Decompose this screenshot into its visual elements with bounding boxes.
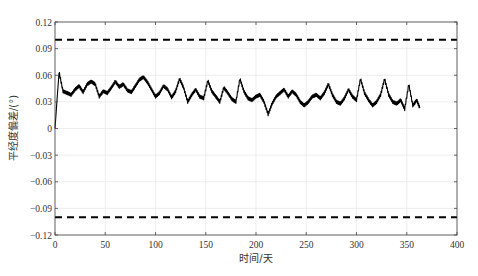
x-tick-label: 250 (299, 240, 314, 250)
y-tick-label: 0 (47, 124, 52, 134)
y-axis-ticks: −0.12−0.09−0.06−0.0300.030.060.090.12 (30, 18, 457, 241)
x-axis-label: 时间/天 (239, 252, 272, 264)
y-tick-label: 0.12 (35, 18, 52, 28)
y-tick-label: −0.09 (30, 204, 52, 214)
y-tick-label: 0.06 (35, 71, 52, 81)
y-tick-label: −0.12 (30, 231, 52, 241)
y-tick-label: 0.03 (35, 97, 52, 107)
x-tick-label: 0 (53, 240, 58, 250)
x-tick-label: 100 (148, 240, 163, 250)
x-tick-label: 50 (101, 240, 111, 250)
x-tick-label: 350 (400, 240, 415, 250)
y-tick-label: −0.06 (30, 177, 52, 187)
y-tick-label: 0.09 (35, 44, 52, 54)
x-tick-label: 200 (249, 240, 264, 250)
x-tick-label: 400 (450, 240, 465, 250)
y-axis-label: 平经度偏差/(°) (7, 95, 19, 161)
x-tick-label: 150 (199, 240, 214, 250)
y-tick-label: −0.03 (30, 151, 52, 161)
line-chart: 050100150200250300350400 −0.12−0.09−0.06… (0, 0, 478, 276)
x-axis-ticks: 050100150200250300350400 (53, 22, 465, 250)
deviation-trace (55, 73, 420, 129)
grid-lines (55, 22, 457, 235)
x-tick-label: 300 (349, 240, 364, 250)
